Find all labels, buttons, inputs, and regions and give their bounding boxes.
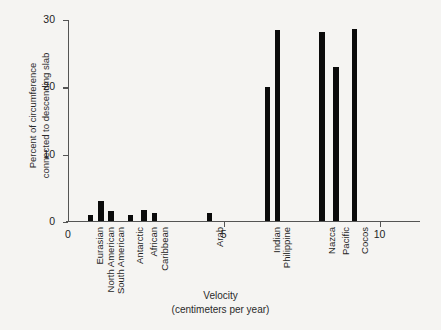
bar [207,213,212,221]
category-label: Arab [214,227,225,247]
bar [88,215,93,222]
y-tick: 10 [63,155,68,156]
chart-figure: Percent of circumference connected to de… [0,0,441,330]
plot-area: 0102030 0510 EurasianNorth AmericanSouth… [68,20,420,222]
x-tick-label: 0 [65,228,71,240]
x-tick-label: 10 [374,228,386,240]
y-axis-line [68,20,69,222]
bar [98,201,104,222]
x-tick [380,222,381,227]
bar [108,211,113,222]
y-tick-label: 30 [43,13,55,25]
bar [275,30,281,221]
category-label: Pacific [340,227,351,255]
x-axis-title-main: Velocity [203,290,237,301]
bar [141,210,147,221]
y-tick-label: 20 [43,80,55,92]
category-label: Eurasian [94,227,105,265]
category-label: Caribbean [159,227,170,271]
y-tick-label: 0 [49,215,55,227]
y-tick: 20 [63,87,68,88]
bar [352,29,357,222]
category-label: Cocos [359,227,370,254]
category-label: Antarctic [134,227,145,264]
y-axis-title-line1: Percent of circumference [28,62,39,168]
category-label: Philippine [281,227,292,268]
x-axis-title: Velocity (centimeters per year) [0,289,441,317]
y-tick: 30 [63,20,68,21]
y-tick: 0 [63,222,68,223]
category-label: Nazca [326,227,337,254]
bar [265,87,270,222]
x-axis-line [66,221,420,222]
x-axis-title-sub: (centimeters per year) [0,303,441,317]
bar [152,213,157,221]
bar [333,67,338,222]
bar [319,32,324,221]
y-axis-title: Percent of circumference connected to de… [20,0,60,230]
category-label: South American [115,227,126,294]
bar [128,215,133,222]
category-label: African [148,227,159,257]
y-tick-label: 10 [43,148,55,160]
